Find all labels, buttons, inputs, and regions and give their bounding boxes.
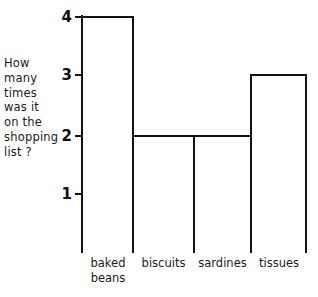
y-tick-label-1: 1 <box>52 187 72 202</box>
y-axis-label-line-5: on the <box>4 115 60 130</box>
y-tick-label-4: 4 <box>52 10 72 25</box>
x-category-label-baked-beans: baked beans <box>82 256 134 285</box>
y-axis-label-line-3: times <box>4 86 60 101</box>
bar-chart: How many times was it on the shopping li… <box>0 0 318 297</box>
bar-baked-beans <box>81 16 134 253</box>
x-category-label-baked-beans-line-2: beans <box>82 271 134 286</box>
bar-sardines <box>193 135 252 253</box>
x-category-label-sardines: sardines <box>194 256 251 271</box>
x-category-label-sardines-text: sardines <box>194 256 251 271</box>
y-axis-label-line-7: list ? <box>4 145 60 160</box>
x-category-label-tissues-text: tissues <box>251 256 307 271</box>
x-category-label-biscuits: biscuits <box>133 256 194 271</box>
x-category-label-biscuits-text: biscuits <box>133 256 194 271</box>
x-category-label-tissues: tissues <box>251 256 307 271</box>
x-category-label-baked-beans-line-1: baked <box>82 256 134 271</box>
bar-tissues <box>250 74 307 253</box>
y-axis-label-line-4: was it <box>4 100 60 115</box>
y-tick-label-3: 3 <box>52 68 72 83</box>
bar-biscuits <box>132 135 195 253</box>
y-tick-label-2: 2 <box>52 129 72 144</box>
